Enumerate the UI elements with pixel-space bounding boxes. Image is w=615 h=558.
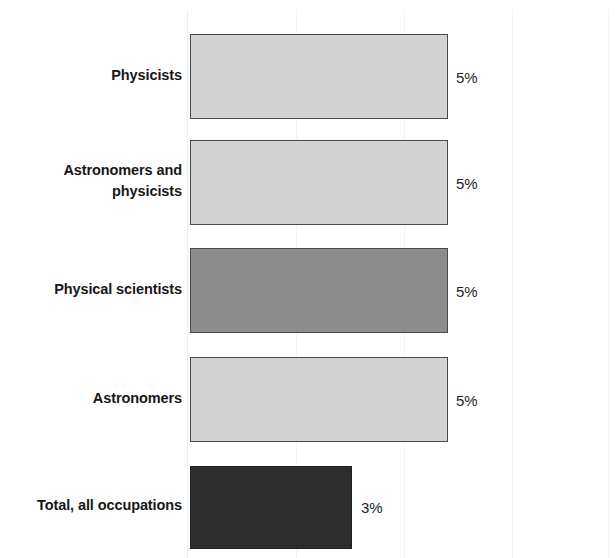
bar-row: Physical scientists 5%	[0, 248, 615, 333]
value-label: 3%	[361, 500, 383, 515]
category-label-line: Astronomers and	[0, 160, 182, 181]
bar-row: Total, all occupations 3%	[0, 466, 615, 549]
bar	[190, 357, 448, 442]
bar	[190, 140, 448, 225]
bar-chart: Physicists 5% Astronomers and physicists…	[0, 0, 615, 558]
chart-title	[0, 0, 615, 3]
bar-row: Astronomers 5%	[0, 357, 615, 442]
category-label-line: physicists	[0, 181, 182, 202]
category-label-line: Total, all occupations	[37, 497, 182, 513]
category-label-line: Physical scientists	[54, 281, 182, 297]
category-label: Physical scientists	[0, 279, 182, 300]
bar-row: Physicists 5%	[0, 34, 615, 119]
category-label: Physicists	[0, 65, 182, 86]
bar	[190, 34, 448, 119]
bar	[190, 466, 352, 549]
value-label: 5%	[456, 176, 478, 191]
value-label: 5%	[456, 393, 478, 408]
value-label: 5%	[456, 70, 478, 85]
category-label: Astronomers and physicists	[0, 160, 182, 202]
category-label: Astronomers	[0, 388, 182, 409]
category-label-line: Astronomers	[93, 390, 182, 406]
bar-row: Astronomers and physicists 5%	[0, 140, 615, 225]
bar	[190, 248, 448, 333]
category-label: Total, all occupations	[0, 495, 182, 516]
category-label-line: Physicists	[111, 67, 182, 83]
value-label: 5%	[456, 284, 478, 299]
